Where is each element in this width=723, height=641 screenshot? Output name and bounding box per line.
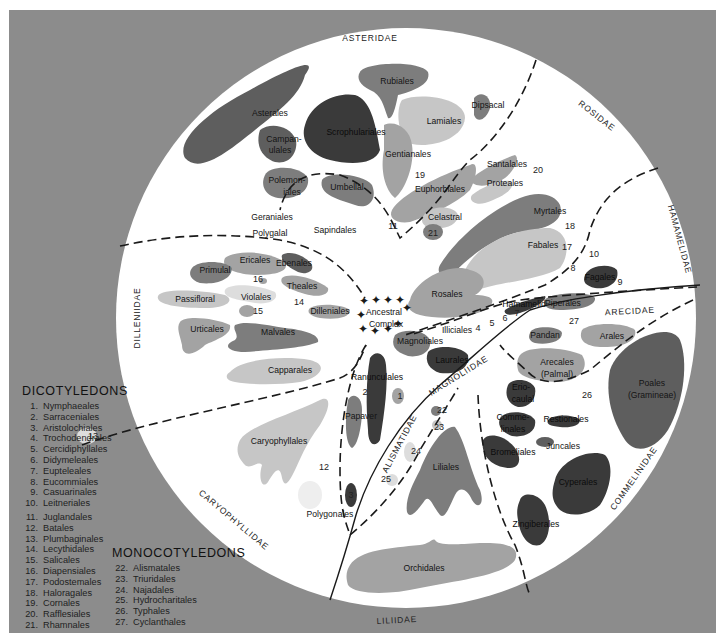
legend-item-name: Triuridales (133, 574, 176, 584)
marker-14: 14 (294, 297, 304, 307)
legend-item-name: Cyclanthales (133, 617, 186, 627)
order-label-lamiales: Lamiales (427, 116, 461, 126)
order-label-pandan: Pandan (530, 330, 560, 340)
order-label-euphorbiales: Euphorbiales (415, 184, 465, 194)
marker-1: 1 (397, 391, 402, 401)
marker-25: 25 (381, 474, 391, 484)
monocotyledons-legend: MONOCOTYLEDONS 22.Alismatales23.Triurida… (112, 546, 245, 628)
order-label-fagales: Fagales (585, 272, 616, 282)
legend-item-name: Hydrocharitales (133, 595, 197, 605)
subclass-label-dilleniidae: DILLENIIDAE (132, 288, 142, 349)
marker-11: 11 (388, 221, 397, 231)
legend-item: 4.Trochodendrales (22, 433, 128, 444)
order-label-illiciales: Illiciales (442, 325, 472, 335)
marker-3: 3 (348, 490, 353, 500)
order-label-restionales: Restionales (544, 414, 589, 424)
legend-item-name: Eucommiales (43, 477, 98, 487)
legend-item-number: 25. (112, 595, 128, 606)
legend-item-name: Leitneriales (43, 498, 90, 508)
monocotyledons-title: MONOCOTYLEDONS (112, 546, 245, 560)
legend-item: 5.Cercidiphyllales (22, 444, 128, 455)
legend-item: 2.Sarraceniales (22, 412, 128, 423)
legend-item: 7.Eupteleales (22, 466, 128, 477)
svg-text:✦: ✦ (356, 308, 366, 322)
legend-item-number: 11. (22, 512, 38, 523)
marker-22: 22 (437, 405, 447, 415)
marker-10: 10 (589, 249, 599, 259)
legend-item-number: 27. (112, 617, 128, 628)
dicotyledons-title: DICOTYLEDONS (22, 384, 128, 398)
order-label-bromeliales: Bromeliales (491, 447, 536, 457)
order-label-comme: Comme- (497, 412, 530, 422)
legend-item: 11.Juglandales (22, 512, 128, 523)
legend-item: 12.Batales (22, 523, 128, 534)
legend-item-name: Nymphaeales (43, 401, 99, 411)
order-label-caryophyllales: Caryophyllales (251, 436, 307, 446)
legend-item: 1.Nymphaeales (22, 401, 128, 412)
monocotyledons-list: 22.Alismatales23.Triuridales24.Najadales… (112, 563, 245, 628)
order-label-orchidales: Orchidales (403, 563, 444, 573)
legend-item: 27.Cyclanthales (112, 617, 245, 628)
marker-7: 7 (514, 308, 519, 318)
legend-item-number: 20. (22, 609, 38, 620)
svg-text:✦: ✦ (359, 294, 369, 308)
legend-item-name: Sarraceniales (43, 412, 99, 422)
marker-5: 5 (489, 318, 494, 328)
order-label-polygonales: Polygonales (307, 509, 354, 519)
order-label-campan: Campan- (266, 134, 301, 144)
legend-item-number: 15. (22, 555, 38, 566)
order-label-theales: Theales (287, 281, 318, 291)
legend-item-number: 16. (22, 566, 38, 577)
marker-12: 12 (319, 462, 329, 472)
marker-4: 4 (475, 323, 480, 333)
legend-item-number: 7. (22, 466, 38, 477)
legend-item-number: 21. (22, 620, 38, 631)
legend-item-number: 2. (22, 412, 38, 423)
legend-item: 3.Aristolochiales (22, 423, 128, 434)
legend-item-name: Alismatales (133, 563, 180, 573)
marker-17: 17 (562, 242, 572, 252)
legend-item-number: 8. (22, 477, 38, 488)
order-label-arales: Arales (600, 331, 624, 341)
marker-21: 21 (428, 228, 438, 238)
legend-item-name: Najadales (133, 585, 174, 595)
order-label-urticales: Urticales (190, 324, 223, 334)
svg-text:✦: ✦ (358, 322, 368, 336)
order-label-malvales: Malvales (261, 327, 295, 337)
order-label-rosales: Rosales (431, 289, 462, 299)
legend-item-name: Trochodendrales (43, 433, 112, 443)
order-label-laurales: Laurales (436, 355, 469, 365)
legend-item-name: Batales (43, 523, 74, 533)
legend-item: 10.Leitneriales (22, 498, 128, 509)
order-label-geraniales: Geraniales (251, 212, 293, 222)
legend-item: 8.Eucommiales (22, 477, 128, 488)
order-label-palmal: (Palmal) (541, 369, 573, 379)
order-label-fabales: Fabales (528, 240, 559, 250)
order-label-juncales: Juncales (546, 441, 580, 451)
legend-item-number: 18. (22, 588, 38, 599)
legend-item: 22.Alismatales (112, 563, 245, 574)
legend-item-name: Casuarinales (43, 487, 97, 497)
shape-polygonales (298, 481, 322, 509)
order-label-zingiberales: Zingiberales (513, 519, 560, 529)
order-label-celastral: Celastral (428, 212, 462, 222)
marker-20: 20 (533, 165, 543, 175)
legend-item-name: Aristolochiales (43, 423, 102, 433)
order-label-linales: linales (501, 424, 525, 434)
marker-26: 26 (582, 390, 592, 400)
legend-item-number: 17. (22, 577, 38, 588)
order-label-santalales: Santalales (487, 159, 527, 169)
order-label-polemon: Polemon- (269, 175, 306, 185)
legend-item-name: Plumbaginales (43, 534, 103, 544)
legend-item-number: 19. (22, 598, 38, 609)
order-label-violales: Violales (241, 292, 271, 302)
legend-item-number: 23. (112, 574, 128, 585)
order-label-gentianales: Gentianales (385, 149, 431, 159)
legend-item-name: Salicales (43, 555, 80, 565)
legend-item: 24.Najadales (112, 585, 245, 596)
order-label-ebenales: Ebenales (276, 258, 312, 268)
order-label-gramineae: (Gramineae) (628, 390, 676, 400)
legend-item-name: Podostemales (43, 577, 101, 587)
marker-8: 8 (570, 263, 575, 273)
order-label-dipsacal: Dipsacal (472, 100, 505, 110)
